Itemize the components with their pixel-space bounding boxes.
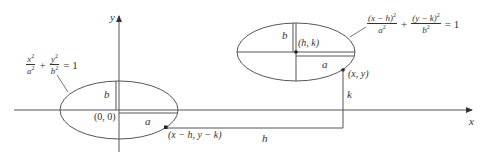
right-eq-pointer [350, 27, 366, 37]
right-b-label: b [282, 30, 288, 41]
left-b-label: b [104, 89, 110, 100]
h-label: h [262, 133, 268, 144]
x-axis-label: x [469, 116, 474, 127]
ellipse-translation-diagram: y x x2a2 + y2b2 = 1 b (0, 0) a (x − h, y… [0, 0, 485, 153]
center-hk-point [294, 50, 298, 54]
point-xh-yk [164, 126, 168, 130]
point-xh-yk-label: (x − h, y − k) [168, 130, 221, 140]
y-axis-label: y [110, 12, 115, 23]
point-xy-label: (x, y) [348, 69, 369, 79]
right-ellipse-equation: (x − h)2a2 + (y − k)2b2 = 1 [367, 12, 459, 36]
left-a-label: a [145, 116, 151, 127]
origin-label: (0, 0) [94, 112, 116, 122]
left-eq-pointer [57, 75, 68, 92]
center-hk-label: (h, k) [298, 38, 319, 48]
right-a-label: a [322, 59, 328, 70]
left-ellipse-equation: x2a2 + y2b2 = 1 [26, 53, 78, 77]
k-label: k [347, 89, 352, 100]
